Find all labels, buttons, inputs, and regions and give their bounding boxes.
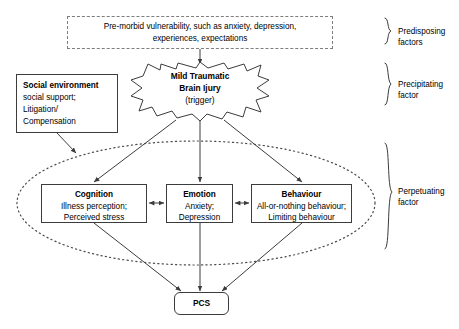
brace-perpetuating bbox=[385, 143, 392, 249]
node-social-environment: Social environment social support; Litig… bbox=[16, 74, 118, 133]
node-behaviour: Behaviour All-or-nothing behaviour; Limi… bbox=[251, 184, 352, 223]
social-environment-line-3: Compensation bbox=[23, 116, 117, 128]
social-environment-line-2: Litigation/ bbox=[23, 104, 117, 116]
pcs-title: PCS bbox=[193, 298, 210, 308]
premorbid-line-2: experiences, expectations bbox=[68, 33, 332, 45]
behaviour-line-2: Limiting behaviour bbox=[252, 212, 351, 224]
edge-social-to-perpetuating bbox=[57, 133, 76, 153]
node-emotion: Emotion Anxiety; Depression bbox=[166, 184, 233, 223]
perpetuating-line-1: Perpetuating bbox=[398, 186, 458, 197]
label-perpetuating-factor: Perpetuating factor bbox=[398, 186, 458, 208]
precipitating-line-2: factor bbox=[398, 90, 458, 101]
cognition-line-1: Illness perception; bbox=[42, 201, 146, 213]
social-environment-line-1: social support; bbox=[23, 92, 117, 104]
label-precipitating-factor: Precipitating factor bbox=[398, 79, 458, 101]
edge-cognition-to-pcs bbox=[94, 223, 181, 291]
mtbi-title-line-2: Brain Ijury bbox=[146, 82, 254, 94]
cognition-line-2: Perceived stress bbox=[42, 212, 146, 224]
behaviour-title: Behaviour bbox=[252, 189, 351, 201]
label-predisposing-factors: Predisposing factors bbox=[398, 26, 458, 48]
connector-layer bbox=[0, 0, 459, 329]
mtbi-title-line-1: Mild Traumatic bbox=[146, 70, 254, 82]
edge-behaviour-to-pcs bbox=[222, 223, 302, 291]
predisposing-line-1: Predisposing bbox=[398, 26, 458, 37]
brace-predisposing bbox=[385, 18, 391, 44]
edge-mtbi-to-behaviour bbox=[224, 120, 302, 182]
precipitating-line-1: Precipitating bbox=[398, 79, 458, 90]
node-pcs: PCS bbox=[174, 292, 229, 315]
perpetuating-line-2: factor bbox=[398, 197, 458, 208]
diagram-canvas: Pre-morbid vulnerability, such as anxiet… bbox=[0, 0, 459, 329]
mtbi-subtitle: (trigger) bbox=[146, 94, 254, 106]
emotion-title: Emotion bbox=[167, 189, 232, 201]
emotion-line-1: Anxiety; bbox=[167, 201, 232, 213]
social-environment-title: Social environment bbox=[23, 80, 117, 92]
node-mild-traumatic-brain-injury: Mild Traumatic Brain Ijury (trigger) bbox=[146, 68, 254, 107]
node-cognition: Cognition Illness perception; Perceived … bbox=[41, 184, 147, 223]
cognition-title: Cognition bbox=[42, 189, 146, 201]
emotion-line-2: Depression bbox=[167, 212, 232, 224]
behaviour-line-1: All-or-nothing behaviour; bbox=[252, 201, 351, 213]
node-premorbid-vulnerability: Pre-morbid vulnerability, such as anxiet… bbox=[67, 16, 333, 49]
predisposing-line-2: factors bbox=[398, 37, 458, 48]
premorbid-line-1: Pre-morbid vulnerability, such as anxiet… bbox=[68, 21, 332, 33]
brace-precipitating bbox=[385, 63, 391, 105]
